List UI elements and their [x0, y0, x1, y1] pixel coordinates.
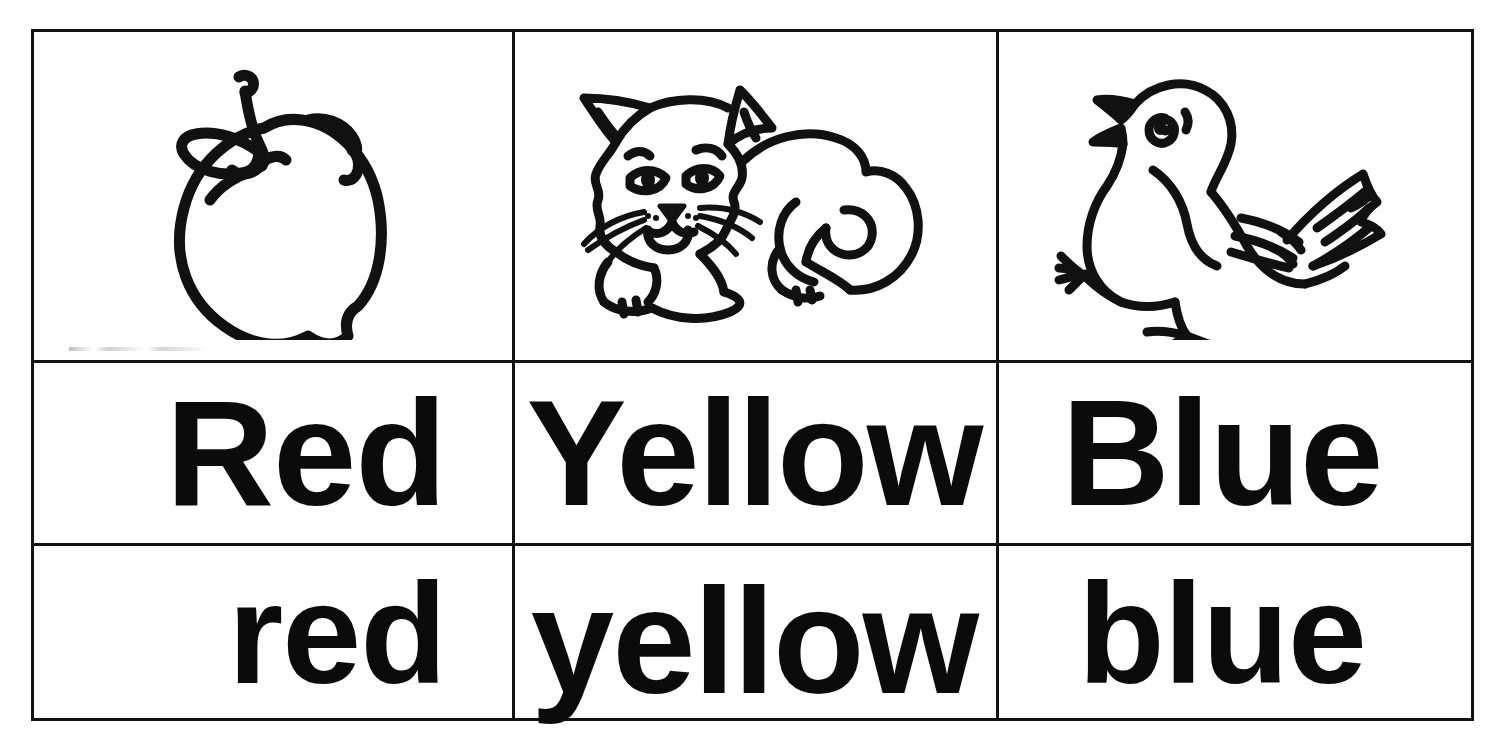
word-yellow-lowercase: yellow	[531, 568, 978, 715]
word-cell-blue-lowercase: blue	[996, 546, 1474, 721]
worksheet-sheet: Red Yellow Blue red yellow blue	[31, 29, 1474, 721]
picture-cell-cat	[512, 29, 996, 360]
word-cell-red-lowercase: red	[31, 546, 512, 721]
lowercase-word-row: red yellow blue	[31, 546, 1474, 721]
bird-illustration	[1025, 50, 1445, 340]
picture-row	[31, 29, 1474, 360]
word-cell-blue-capitalized: Blue	[996, 363, 1474, 543]
cat-illustration	[544, 50, 964, 340]
apple-illustration	[112, 50, 432, 340]
picture-cell-apple	[31, 29, 512, 360]
word-yellow-capitalized: Yellow	[527, 380, 982, 527]
word-cell-yellow-capitalized: Yellow	[512, 363, 996, 543]
word-cell-yellow-lowercase: yellow	[512, 546, 996, 721]
picture-cell-bird	[996, 29, 1474, 360]
word-red-capitalized: Red	[166, 380, 446, 527]
word-cell-red-capitalized: Red	[31, 363, 512, 543]
word-blue-capitalized: Blue	[1061, 380, 1382, 527]
capitalized-word-row: Red Yellow Blue	[31, 363, 1474, 543]
word-red-lowercase: red	[228, 564, 446, 703]
word-blue-lowercase: blue	[1078, 564, 1366, 703]
